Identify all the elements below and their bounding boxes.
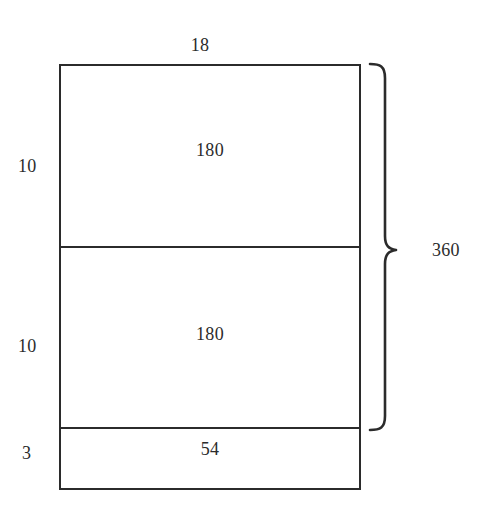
top-width-label: 18 xyxy=(191,36,210,54)
row-bottom-left-label: 3 xyxy=(22,444,31,462)
row-divider-top xyxy=(59,246,361,248)
row-top-value: 180 xyxy=(196,141,224,159)
row-top-left-label: 10 xyxy=(18,157,37,175)
right-brace-icon xyxy=(366,56,406,438)
diagram-canvas: 18 10 10 3 180 180 54 360 xyxy=(0,0,483,529)
row-bottom-value: 54 xyxy=(201,440,220,458)
brace-total-label: 360 xyxy=(432,241,460,259)
row-divider-bottom xyxy=(59,427,361,429)
row-middle-left-label: 10 xyxy=(18,337,37,355)
row-middle-value: 180 xyxy=(196,325,224,343)
right-brace-group xyxy=(366,56,406,438)
